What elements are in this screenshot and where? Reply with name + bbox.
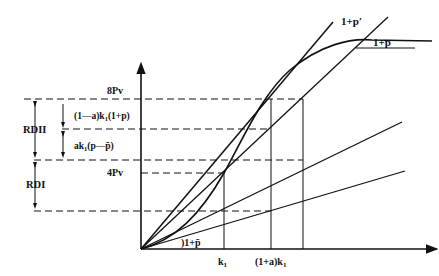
line-45deg <box>141 17 388 249</box>
label-lower-term: ak1(p—p̄) <box>74 141 114 152</box>
label-1plus-p-prime: 1+p′ <box>341 15 362 27</box>
label-1plusa-k1: (1+a)k1 <box>255 256 287 269</box>
label-rdi: RDI <box>26 179 45 190</box>
curve-1plus-p <box>141 40 432 249</box>
label-1plus-pbar: )1+p̄ <box>181 237 201 249</box>
diagram-canvas: 1+p′ 1+p )1+p̄ 8Pv 4Pv k1 (1+a)k1 RDII R… <box>0 0 439 276</box>
label-8pv: 8Pv <box>107 85 123 96</box>
label-4pv: 4Pv <box>107 167 123 178</box>
label-rdii: RDII <box>23 124 46 135</box>
label-upper-term: (1—a)k1(1+p) <box>74 111 130 122</box>
line-1plus-p-prime <box>141 22 333 249</box>
label-k1: k1 <box>218 256 228 269</box>
label-1plus-p: 1+p <box>373 36 391 48</box>
